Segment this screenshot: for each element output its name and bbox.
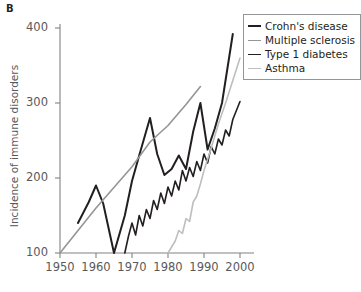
y-tick-label: 300 xyxy=(14,95,48,109)
legend-label: Type 1 diabetes xyxy=(265,48,348,60)
legend-item[interactable]: Type 1 diabetes xyxy=(248,47,355,61)
legend: Crohn's diseaseMultiple sclerosisType 1 … xyxy=(243,14,361,80)
legend-label: Asthma xyxy=(265,62,305,74)
legend-label: Crohn's disease xyxy=(265,20,348,32)
legend-item[interactable]: Crohn's disease xyxy=(248,19,355,33)
legend-swatch-icon xyxy=(248,68,261,69)
legend-swatch-icon xyxy=(248,25,261,27)
legend-swatch-icon xyxy=(248,40,261,41)
panel-label: B xyxy=(6,3,14,14)
y-tick-label: 400 xyxy=(14,20,48,34)
y-tick-label: 100 xyxy=(14,245,48,259)
y-axis-title: Incidence of immune disorders xyxy=(8,46,20,246)
series-line xyxy=(78,34,233,253)
x-tick-label: 2000 xyxy=(217,260,263,274)
legend-label: Multiple sclerosis xyxy=(265,34,355,46)
y-tick-label: 200 xyxy=(14,170,48,184)
axis-lines xyxy=(60,24,254,253)
data-series-group xyxy=(60,34,240,253)
legend-item[interactable]: Asthma xyxy=(248,61,355,75)
legend-item[interactable]: Multiple sclerosis xyxy=(248,33,355,47)
legend-swatch-icon xyxy=(248,54,261,55)
